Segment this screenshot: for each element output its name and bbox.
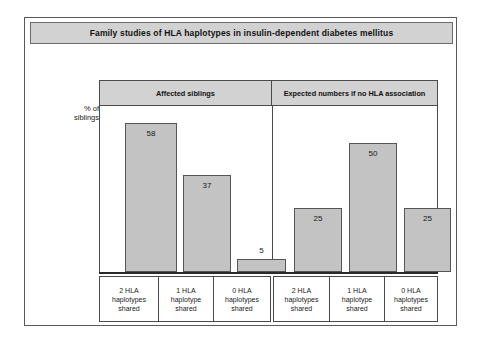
category-affected-2-haplotypes: 2 HLA haplotypes shared bbox=[100, 277, 158, 321]
category-line2: haplotypes bbox=[394, 295, 428, 304]
bar-value-58: 58 bbox=[126, 129, 176, 138]
category-line2: haplotypes bbox=[285, 295, 319, 304]
category-line3: shared bbox=[118, 304, 139, 313]
bar-expected-2-haplotypes: 25 bbox=[294, 208, 342, 272]
bar-affected-0-haplotypes: 5 bbox=[237, 259, 286, 272]
category-affected-0-haplotypes: 0 HLA haplotypes shared bbox=[213, 277, 270, 321]
category-line2: haplotypes bbox=[112, 295, 146, 304]
category-label-row: 2 HLA haplotypes shared 1 HLA haplotype … bbox=[99, 276, 438, 322]
category-affected-1-haplotype: 1 HLA haplotype shared bbox=[158, 277, 213, 321]
bar-affected-1-haplotype: 37 bbox=[183, 175, 231, 272]
y-axis-label-line1: % of bbox=[53, 104, 99, 113]
category-line2: haplotypes bbox=[225, 295, 259, 304]
category-group-expected: 2 HLA haplotypes shared 1 HLA haplotype … bbox=[273, 276, 438, 322]
category-line1: 2 HLA bbox=[292, 286, 311, 295]
bar-value-5: 5 bbox=[238, 246, 285, 255]
bar-value-25-right: 25 bbox=[405, 214, 450, 223]
category-line1: 1 HLA bbox=[176, 286, 195, 295]
figure-title-band: Family studies of HLA haplotypes in insu… bbox=[30, 22, 453, 44]
figure-title: Family studies of HLA haplotypes in insu… bbox=[90, 28, 394, 38]
axis-baseline bbox=[99, 272, 438, 274]
figure-frame: Family studies of HLA haplotypes in insu… bbox=[24, 17, 457, 326]
panel-header-affected-siblings: Affected siblings bbox=[100, 81, 272, 105]
plot-box: 58 37 5 25 50 25 bbox=[99, 106, 438, 273]
chart-area: % of siblings Affected siblings Expected… bbox=[25, 48, 458, 326]
bar-value-25-left: 25 bbox=[295, 214, 341, 223]
category-line2: haplotype bbox=[171, 295, 201, 304]
category-line2: haplotype bbox=[342, 295, 372, 304]
y-axis-label: % of siblings bbox=[53, 104, 99, 122]
panel-header-row: Affected siblings Expected numbers if no… bbox=[99, 80, 438, 106]
bar-value-50: 50 bbox=[350, 149, 396, 158]
category-expected-1-haplotype: 1 HLA haplotype shared bbox=[329, 277, 384, 321]
category-line1: 0 HLA bbox=[232, 286, 251, 295]
category-line3: shared bbox=[175, 304, 196, 313]
category-line3: shared bbox=[346, 304, 367, 313]
bar-expected-0-haplotypes: 25 bbox=[404, 208, 451, 272]
category-line1: 2 HLA bbox=[119, 286, 138, 295]
category-line3: shared bbox=[231, 304, 252, 313]
panel-header-expected-numbers: Expected numbers if no HLA association bbox=[272, 81, 437, 105]
bar-expected-1-haplotype: 50 bbox=[349, 143, 397, 272]
bar-affected-2-haplotypes: 58 bbox=[125, 123, 177, 272]
category-line1: 1 HLA bbox=[347, 286, 366, 295]
category-expected-0-haplotypes: 0 HLA haplotypes shared bbox=[384, 277, 437, 321]
category-line3: shared bbox=[291, 304, 312, 313]
bar-value-37: 37 bbox=[184, 181, 230, 190]
category-expected-2-haplotypes: 2 HLA haplotypes shared bbox=[274, 277, 329, 321]
category-line3: shared bbox=[400, 304, 421, 313]
category-line1: 0 HLA bbox=[401, 286, 420, 295]
y-axis-label-line2: siblings bbox=[53, 113, 99, 122]
category-group-affected: 2 HLA haplotypes shared 1 HLA haplotype … bbox=[99, 276, 271, 322]
